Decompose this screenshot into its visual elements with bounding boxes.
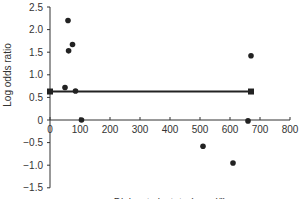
data-point	[248, 53, 254, 59]
x-tick-label: 300	[132, 124, 149, 135]
data-point	[65, 18, 71, 24]
y-axis-label: Log odds ratio	[2, 43, 13, 107]
scatter-chart: 2.52.01.51.00.50−0.5−1.0−1.5010020030040…	[0, 0, 301, 199]
x-tick-label: 100	[72, 124, 89, 135]
x-tick-label: 200	[102, 124, 119, 135]
data-point	[66, 48, 72, 54]
x-axis-label: Dialysate lactate (mmol/l)	[114, 197, 226, 199]
x-tick-label: 700	[252, 124, 269, 135]
data-point	[245, 118, 251, 124]
line-endpoint-marker	[248, 89, 254, 95]
line-endpoint-marker	[47, 89, 53, 95]
x-tick-label: 500	[192, 124, 209, 135]
y-tick-label: −1.5	[23, 182, 43, 193]
y-tick-label: 1.5	[29, 47, 43, 58]
data-point	[62, 85, 68, 91]
data-point	[230, 160, 236, 166]
data-point	[70, 42, 76, 48]
data-point	[79, 117, 85, 123]
y-tick-label: 2.5	[29, 2, 43, 13]
y-tick-label: −1.0	[23, 160, 43, 171]
y-tick-label: 0	[37, 115, 43, 126]
y-tick-label: −0.5	[23, 137, 43, 148]
y-tick-label: 2.0	[29, 24, 43, 35]
x-tick-label: 800	[282, 124, 299, 135]
x-tick-label: 400	[162, 124, 179, 135]
y-tick-label: 1.0	[29, 69, 43, 80]
y-tick-label: 0.5	[29, 92, 43, 103]
data-point	[200, 143, 206, 149]
x-tick-label: 0	[47, 124, 53, 135]
x-tick-label: 600	[222, 124, 239, 135]
